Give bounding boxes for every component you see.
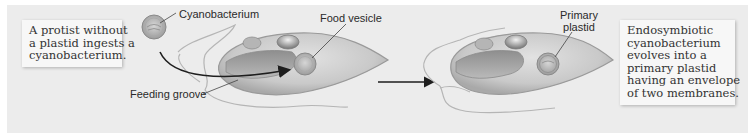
intro-line-1: A protist without: [29, 24, 115, 37]
outcome-line-5: having an envelope: [627, 74, 728, 87]
outcome-textbox: Endosymbiotic cyanobacterium evolves int…: [620, 20, 735, 105]
intro-line-3: cyanobacterium.: [29, 49, 115, 62]
organelle-oval: [277, 35, 299, 49]
intro-textbox: A protist without a plastid ingests a cy…: [22, 20, 122, 67]
organelle: [243, 37, 261, 49]
diagram-canvas: A protist without a plastid ingests a cy…: [0, 0, 748, 139]
label-primary-plastid-line2: plastid: [560, 21, 598, 33]
cyanobacterium-cell: [142, 15, 166, 39]
protist-cell-stage2: [451, 33, 613, 94]
label-feeding-groove: Feeding groove: [130, 88, 206, 100]
protist-cell-stage1: [219, 33, 388, 95]
label-primary-plastid: Primary plastid: [560, 9, 598, 33]
outcome-line-3: evolves into a: [627, 49, 728, 62]
feeding-groove-leader-line: [203, 80, 238, 94]
outcome-line-1: Endosymbiotic: [627, 24, 728, 37]
label-cyanobacterium: Cyanobacterium: [179, 8, 259, 20]
outcome-line-6: of two membranes.: [627, 87, 728, 100]
label-primary-plastid-line1: Primary: [560, 9, 598, 21]
label-food-vesicle: Food vesicle: [320, 12, 382, 24]
